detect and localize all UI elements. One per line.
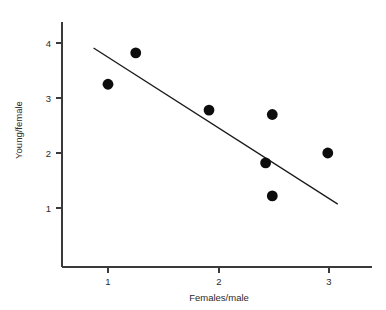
x-tick-label-3: 3 (326, 276, 331, 287)
data-point (267, 109, 278, 120)
data-point (322, 148, 333, 159)
y-tick-label-2: 2 (46, 148, 51, 159)
data-point (130, 48, 141, 59)
x-axis-title: Females/male (189, 292, 249, 303)
y-tick-label-3: 3 (46, 93, 51, 104)
data-point (267, 191, 278, 202)
data-point (103, 79, 114, 90)
scatter-plot-figure: 4 3 2 1 1 2 3 Females/male Young/female (0, 0, 386, 310)
y-axis-title: Young/female (13, 101, 24, 159)
data-point (260, 158, 271, 169)
data-point (204, 105, 215, 116)
y-tick-label-4: 4 (46, 38, 51, 49)
x-tick-label-1: 1 (105, 276, 110, 287)
y-tick-label-1: 1 (46, 203, 51, 214)
x-tick-label-2: 2 (216, 276, 221, 287)
plot-canvas: 4 3 2 1 1 2 3 Females/male Young/female (0, 0, 386, 310)
